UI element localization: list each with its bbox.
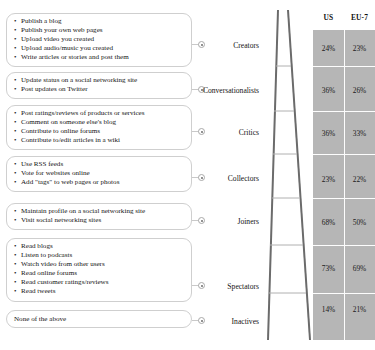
list-item: Upload video you created — [14, 35, 184, 44]
cell-us: 14% — [313, 305, 344, 314]
activity-list-joiners: Maintain profile on a social networking … — [14, 207, 184, 225]
table-gridline-horizontal — [313, 245, 375, 246]
node-dot-collectors — [198, 174, 205, 181]
technographics-ladder-figure: Publish a blog Publish your own web page… — [0, 0, 375, 350]
tier-label-spectators: Spectators — [227, 282, 259, 291]
list-item: Comment on someone else's blog — [14, 118, 184, 127]
tier-label-inactives: Inactives — [232, 317, 259, 326]
activity-box-joiners: Maintain profile on a social networking … — [6, 203, 192, 230]
cell-eu7: 23% — [344, 44, 375, 53]
list-item: Publish a blog — [14, 17, 184, 26]
cell-us: 73% — [313, 264, 344, 273]
column-header-us: US — [313, 13, 344, 27]
list-item: Watch video from other users — [14, 260, 184, 269]
table-gridline-horizontal — [313, 66, 375, 67]
table-row: 14% 21% — [313, 305, 375, 314]
list-item: Add "tags" to web pages or photos — [14, 178, 184, 187]
activity-box-conversationalists: Update status on a social networking sit… — [6, 72, 192, 99]
cell-eu7: 33% — [344, 129, 375, 138]
node-dot-creators — [198, 41, 205, 48]
table-gridline-horizontal — [313, 111, 375, 112]
table-row: 73% 69% — [313, 264, 375, 273]
node-dot-critics — [198, 128, 205, 135]
list-item: Use RSS feeds — [14, 160, 184, 169]
list-item: Vote for websites online — [14, 169, 184, 178]
activity-box-creators: Publish a blog Publish your own web page… — [6, 13, 192, 67]
activity-list-critics: Post ratings/reviews of products or serv… — [14, 109, 184, 145]
column-header-eu7: EU-7 — [344, 13, 375, 27]
ladder-left-rail — [268, 10, 278, 340]
node-dot-inactives — [198, 317, 205, 324]
list-item: Read blogs — [14, 242, 184, 251]
list-item: Publish your own web pages — [14, 26, 184, 35]
list-item: None of the above — [14, 315, 184, 324]
cell-us: 24% — [313, 44, 344, 53]
cell-eu7: 22% — [344, 175, 375, 184]
list-item: Listen to podcasts — [14, 251, 184, 260]
list-item: Read online forums — [14, 269, 184, 278]
activity-list-creators: Publish a blog Publish your own web page… — [14, 17, 184, 62]
node-dot-joiners — [198, 217, 205, 224]
table-gridline-horizontal — [313, 293, 375, 294]
cell-eu7: 21% — [344, 305, 375, 314]
activity-box-critics: Post ratings/reviews of products or serv… — [6, 105, 192, 150]
list-item: Contribute to online forums — [14, 127, 184, 136]
list-item: Visit social networking sites — [14, 216, 184, 225]
activity-box-inactives: None of the above — [6, 310, 192, 328]
list-item: Contribute to/edit articles in a wiki — [14, 136, 184, 145]
activity-list-conversationalists: Update status on a social networking sit… — [14, 76, 184, 94]
activity-list-collectors: Use RSS feeds Vote for websites online A… — [14, 160, 184, 187]
ladder-right-rail — [288, 10, 310, 340]
tier-label-collectors: Collectors — [228, 174, 259, 183]
cell-us: 36% — [313, 86, 344, 95]
table-gridline-horizontal — [313, 198, 375, 199]
data-table: 24% 23% 36% 26% 36% 33% 23% 22% 68% 50% … — [313, 30, 375, 340]
list-item: Upload audio/music you created — [14, 44, 184, 53]
list-item: Read customer ratings/reviews — [14, 278, 184, 287]
list-item: Maintain profile on a social networking … — [14, 207, 184, 216]
table-row: 23% 22% — [313, 175, 375, 184]
tier-label-creators: Creators — [233, 41, 259, 50]
table-row: 24% 23% — [313, 44, 375, 53]
activity-box-collectors: Use RSS feeds Vote for websites online A… — [6, 156, 192, 192]
table-row: 68% 50% — [313, 218, 375, 227]
cell-us: 36% — [313, 129, 344, 138]
list-item: Update status on a social networking sit… — [14, 76, 184, 85]
table-row: 36% 33% — [313, 129, 375, 138]
cell-us: 68% — [313, 218, 344, 227]
list-item: Post ratings/reviews of products or serv… — [14, 109, 184, 118]
cell-eu7: 26% — [344, 86, 375, 95]
list-item: Post updates on Twitter — [14, 85, 184, 94]
list-item: Read tweets — [14, 287, 184, 296]
node-dot-spectators — [198, 282, 205, 289]
activity-box-spectators: Read blogs Listen to podcasts Watch vide… — [6, 238, 192, 302]
cell-eu7: 50% — [344, 218, 375, 227]
activity-list-spectators: Read blogs Listen to podcasts Watch vide… — [14, 242, 184, 297]
table-row: 36% 26% — [313, 86, 375, 95]
cell-eu7: 69% — [344, 264, 375, 273]
tier-label-joiners: Joiners — [237, 217, 259, 226]
table-gridline-horizontal — [313, 154, 375, 155]
tier-label-critics: Critics — [239, 128, 259, 137]
table-header-row: US EU-7 — [313, 13, 375, 27]
cell-us: 23% — [313, 175, 344, 184]
tier-label-conversationalists: Conversationalists — [203, 86, 259, 95]
list-item: Write articles or stories and post them — [14, 53, 184, 62]
